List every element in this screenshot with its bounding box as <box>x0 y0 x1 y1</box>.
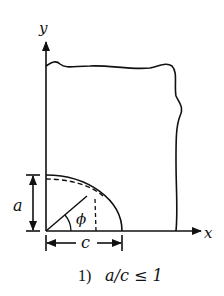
crack-diagram: y x ϕ a c 1) a/c ≤ 1 <box>0 0 224 296</box>
projection-dashed <box>95 199 96 231</box>
c-label: c <box>81 233 90 252</box>
x-axis-label: x <box>204 224 213 242</box>
angle-label: ϕ <box>76 210 86 228</box>
y-axis-label: y <box>38 19 48 37</box>
a-label: a <box>13 196 23 215</box>
caption-number: 1) <box>78 267 91 285</box>
angle-arc <box>65 215 71 231</box>
caption-condition: a/c ≤ 1 <box>105 266 163 285</box>
